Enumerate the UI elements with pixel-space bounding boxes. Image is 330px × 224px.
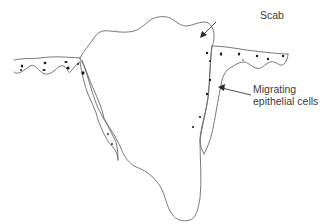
migrating-label-line2: epithelial cells bbox=[253, 95, 318, 107]
right-epidermis-top bbox=[212, 46, 288, 54]
migrating-cells-arrow bbox=[218, 84, 251, 95]
right-migrating-tongue-inner bbox=[200, 46, 212, 154]
scab-label: Scab bbox=[260, 9, 284, 21]
scab-outline bbox=[80, 17, 214, 221]
migrating-label-line1: Migrating bbox=[253, 83, 318, 95]
left-epidermis-bottom bbox=[14, 62, 80, 74]
left-epidermis-top bbox=[14, 57, 80, 60]
migrating-epithelial-cells-label: Migrating epithelial cells bbox=[253, 83, 318, 107]
wound-diagram bbox=[0, 0, 330, 224]
left-migrating-tongue-inner bbox=[82, 60, 118, 160]
